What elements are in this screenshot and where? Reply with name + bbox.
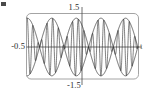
y-axis-max-label: 1.5 [1,3,146,12]
y-axis-min-label: -1.5 [1,81,146,90]
x-axis-min-label: -0.5 [1,42,25,51]
x-axis-name-label: t [140,42,146,51]
beat-waveform-figure: 1.5 -1.5 -0.5 t [0,0,146,92]
